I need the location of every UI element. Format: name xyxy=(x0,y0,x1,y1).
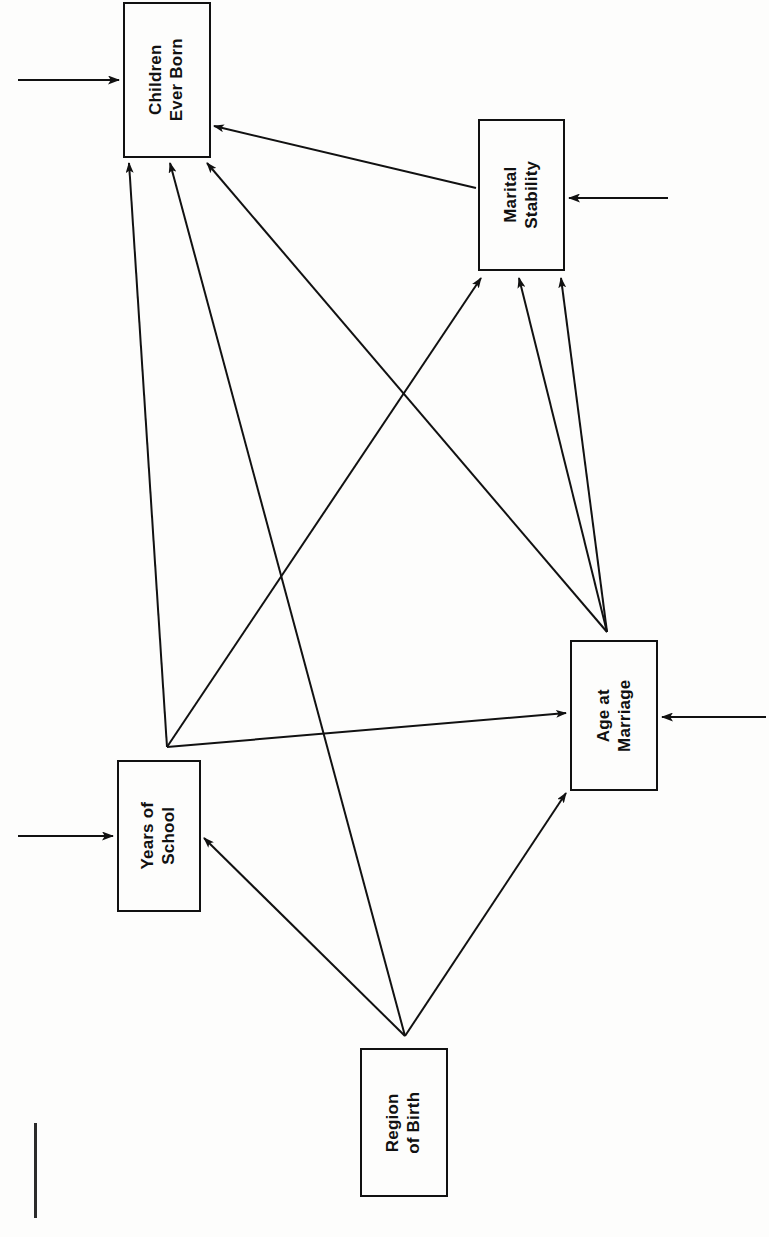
edge-region-of-birth-to-age-at-marriage xyxy=(405,793,566,1036)
edge-age-at-marriage-to-marital-stability-b xyxy=(561,278,607,632)
edge-years-of-school-to-children-ever-born xyxy=(129,163,167,747)
node-label-line1: Region xyxy=(383,1093,402,1152)
node-label-years-of-school: Years ofSchool xyxy=(138,802,179,870)
node-marital-stability: MaritalStability xyxy=(478,119,565,271)
node-label-marital-stability: MaritalStability xyxy=(501,161,542,229)
node-label-line1: Years of xyxy=(138,802,157,870)
node-label-line2: of Birth xyxy=(404,1091,425,1153)
edge-region-of-birth-to-children-ever-born xyxy=(170,163,405,1036)
edge-region-of-birth-to-years-of-school xyxy=(204,838,405,1036)
edge-marital-stability-to-children-ever-born xyxy=(214,126,476,188)
node-label-line1: Marital xyxy=(501,167,520,223)
page-edge-mark xyxy=(34,1123,37,1218)
node-label-line2: School xyxy=(159,802,180,870)
node-label-line1: Age at xyxy=(593,689,612,742)
node-label-children-ever-born: ChildrenEver Born xyxy=(146,38,187,121)
node-age-at-marriage: Age atMarriage xyxy=(570,640,658,791)
node-label-line1: Children xyxy=(146,45,165,116)
node-children-ever-born: ChildrenEver Born xyxy=(123,2,211,158)
path-diagram-page: ChildrenEver BornMaritalStabilityAge atM… xyxy=(0,0,769,1237)
edge-years-of-school-to-age-at-marriage xyxy=(167,713,566,747)
edge-years-of-school-to-marital-stability xyxy=(167,278,481,747)
node-label-line2: Stability xyxy=(522,161,543,229)
node-label-region-of-birth: Regionof Birth xyxy=(383,1091,424,1153)
node-label-line2: Marriage xyxy=(614,679,635,751)
node-label-age-at-marriage: Age atMarriage xyxy=(593,679,634,751)
node-label-line2: Ever Born xyxy=(167,38,188,121)
node-years-of-school: Years ofSchool xyxy=(117,760,201,912)
node-region-of-birth: Regionof Birth xyxy=(360,1048,448,1197)
